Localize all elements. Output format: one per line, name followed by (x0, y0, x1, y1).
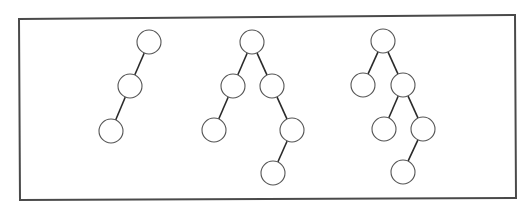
tree-node (391, 73, 415, 97)
tree-edge (278, 141, 287, 162)
tree-edge (257, 53, 267, 75)
tree-edge (219, 97, 228, 119)
tree-edge (388, 52, 398, 74)
tree-node (371, 29, 395, 53)
tree-node (351, 73, 375, 97)
tree-edge (368, 52, 378, 74)
tree-edge (238, 53, 247, 75)
tree-node (202, 118, 226, 142)
tree-1 (99, 30, 161, 143)
tree-edge (408, 96, 418, 118)
tree-node (261, 161, 285, 185)
tree-node (372, 117, 396, 141)
binary-trees-diagram (0, 0, 528, 209)
tree-node (99, 119, 123, 143)
tree-edge (277, 97, 287, 119)
tree-node (118, 74, 142, 98)
tree-node (240, 30, 264, 54)
tree-edge (389, 96, 398, 118)
tree-edge (135, 53, 144, 75)
tree-node (221, 74, 245, 98)
tree-edge (116, 97, 126, 120)
tree-node (137, 30, 161, 54)
trees-layer (99, 29, 435, 185)
tree-node (391, 160, 415, 184)
tree-node (260, 74, 284, 98)
tree-edge (408, 140, 418, 161)
tree-2 (202, 30, 304, 185)
diagram-canvas (0, 0, 528, 209)
tree-node (411, 117, 435, 141)
tree-3 (351, 29, 435, 184)
tree-node (280, 118, 304, 142)
